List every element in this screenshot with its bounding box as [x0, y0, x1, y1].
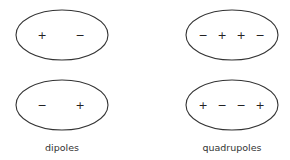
dipole-bottom-ellipse [16, 80, 108, 130]
charge-sign: − [236, 99, 245, 112]
charge-sign: + [255, 99, 264, 112]
dipoles-label: dipoles [45, 142, 79, 153]
charge-sign: + [198, 99, 207, 112]
quadrupole-bottom: + − − + [186, 80, 278, 130]
charge-sign: − [75, 29, 84, 42]
charge-sign: − [217, 99, 226, 112]
dipole-top-ellipse [16, 10, 108, 60]
charge-sign: − [37, 99, 46, 112]
charge-sign: + [75, 99, 84, 112]
charge-distribution-diagram: + − − + − + + − + − − + dipoles quadrupo… [0, 0, 290, 160]
quadrupoles-label: quadrupoles [202, 142, 261, 153]
quadrupole-top: − + + − [186, 10, 278, 60]
dipole-bottom: − + [16, 80, 108, 130]
dipole-top: + − [16, 10, 108, 60]
charge-sign: + [217, 29, 226, 42]
charge-sign: − [255, 29, 264, 42]
charge-sign: + [236, 29, 245, 42]
charge-sign: − [198, 29, 207, 42]
charge-sign: + [37, 29, 46, 42]
